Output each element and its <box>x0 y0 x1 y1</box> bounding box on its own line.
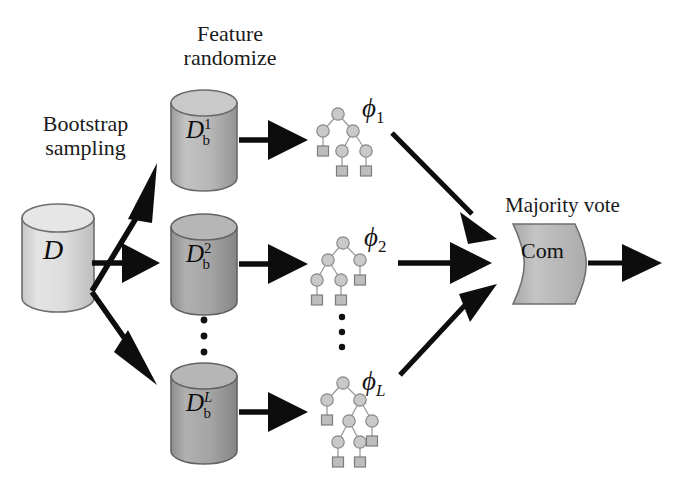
bootstrap-2-superscript: 2 <box>204 240 212 256</box>
tree-1-output-symbol: ϕ1 <box>362 93 384 128</box>
bootstrap-1-base: D <box>186 116 204 143</box>
bootstrap-dataset-1-symbol: D1b <box>186 116 210 149</box>
arrow-bootstrap1-to-tree1 <box>239 120 308 160</box>
diagram-canvas: Feature randomize Bootstrap sampling Maj… <box>0 0 688 489</box>
arrow-bootstrap2-to-tree2 <box>239 244 308 284</box>
bootstrap-1-superscript: 1 <box>204 116 212 132</box>
source-dataset-symbol-text: D <box>43 234 63 265</box>
phi-L-subscript: L <box>376 381 385 400</box>
decision-tree-2 <box>311 237 366 305</box>
cylinder-ellipsis <box>201 317 208 356</box>
bootstrap-sampling-label: Bootstrap sampling <box>8 112 163 160</box>
bootstrap-1-subscript: b <box>203 132 211 148</box>
majority-vote-label: Majority vote <box>505 194 680 217</box>
arrow-combiner-output <box>588 244 662 282</box>
combiner-label: Com <box>521 238 564 264</box>
bootstrap-dataset-L-symbol: DLb <box>186 389 211 422</box>
arrow-bootstrapL-to-treeL <box>239 392 308 432</box>
bootstrap-L-superscript: L <box>204 389 212 405</box>
bootstrap-L-base: D <box>186 389 204 416</box>
combiner-block <box>513 224 586 304</box>
phi-2-glyph: ϕ <box>364 222 378 252</box>
bootstrap-dataset-2-symbol: D2b <box>186 240 210 273</box>
arrow-tree2-to-combiner <box>398 242 492 284</box>
tree-ellipsis <box>339 314 345 350</box>
feature-randomize-label: Feature randomize <box>155 22 305 70</box>
source-dataset-symbol: D <box>43 234 63 266</box>
bootstrap-2-subscript: b <box>203 256 211 272</box>
arrow-treeL-to-combiner <box>400 284 497 375</box>
tree-L-output-symbol: ϕL <box>362 366 385 401</box>
diagram-graphics <box>0 0 688 489</box>
phi-1-subscript: 1 <box>376 108 385 127</box>
phi-2-subscript: 2 <box>378 237 387 256</box>
phi-1-glyph: ϕ <box>362 93 376 123</box>
arrow-tree1-to-combiner <box>392 133 497 244</box>
phi-L-glyph: ϕ <box>362 366 376 396</box>
bootstrap-L-subscript: b <box>203 405 211 421</box>
arrow-dataset-to-bootstrap-L <box>92 292 157 385</box>
tree-2-output-symbol: ϕ2 <box>364 222 386 257</box>
bootstrap-2-base: D <box>186 240 204 267</box>
